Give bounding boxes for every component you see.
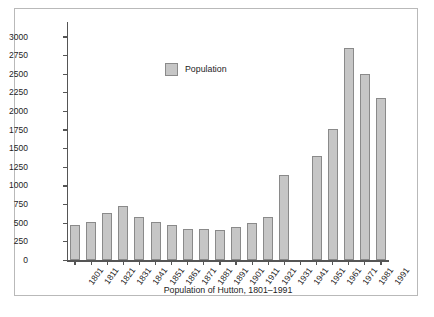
y-tick-mark — [63, 92, 67, 93]
y-axis-line — [67, 22, 68, 261]
x-tick-mark — [203, 261, 204, 265]
x-tick-mark — [235, 261, 236, 265]
x-tick-mark — [139, 261, 140, 265]
chart-legend: Population — [165, 63, 227, 76]
bar — [134, 217, 144, 261]
x-tick-mark — [187, 261, 188, 265]
y-tick-label: 1000 — [9, 181, 28, 190]
x-tick-mark — [123, 261, 124, 265]
bar — [215, 230, 225, 261]
x-tick-label: 1911 — [264, 266, 281, 286]
bar — [279, 175, 289, 261]
x-tick-label: 1871 — [200, 266, 218, 286]
bar — [102, 213, 112, 260]
x-tick-label: 1811 — [103, 266, 120, 286]
bar — [183, 229, 193, 260]
legend-label-population: Population — [185, 65, 227, 74]
x-tick-label: 1841 — [152, 266, 170, 286]
x-tick-mark — [155, 261, 156, 265]
bar — [86, 222, 96, 261]
x-tick-mark — [171, 261, 172, 265]
y-tick-label: 500 — [14, 219, 28, 228]
y-tick-label: 750 — [14, 200, 28, 209]
x-tick-mark — [364, 261, 365, 265]
x-tick-label: 1921 — [280, 266, 298, 286]
y-tick-label: 2500 — [9, 70, 28, 79]
x-tick-label: 1881 — [216, 266, 234, 286]
y-tick-mark — [63, 260, 67, 261]
x-tick-mark — [300, 261, 301, 265]
x-tick-label: 1821 — [119, 266, 137, 286]
y-tick-label: 1250 — [9, 163, 28, 172]
bar — [376, 98, 386, 260]
x-tick-mark — [268, 261, 269, 265]
bar — [328, 129, 338, 260]
y-tick-label: 2000 — [9, 107, 28, 116]
x-tick-label: 1801 — [87, 266, 105, 286]
plot-area: 3000275025002250200017501500125010007505… — [15, 9, 417, 295]
bar — [263, 217, 273, 261]
y-tick-mark — [63, 148, 67, 149]
x-tick-label: 1951 — [329, 266, 347, 286]
x-tick-mark — [380, 261, 381, 265]
x-tick-mark — [316, 261, 317, 265]
x-tick-mark — [74, 261, 75, 265]
y-tick-mark — [63, 111, 67, 112]
bar — [199, 229, 209, 260]
bar — [118, 206, 128, 260]
y-tick-mark — [63, 241, 67, 242]
bar — [360, 74, 370, 261]
x-tick-label: 1991 — [393, 266, 411, 286]
y-tick-label: 250 — [14, 237, 28, 246]
x-tick-mark — [348, 261, 349, 265]
y-tick-mark — [63, 167, 67, 168]
y-tick-mark — [63, 185, 67, 186]
y-tick-mark — [63, 74, 67, 75]
x-tick-label: 1941 — [313, 266, 331, 286]
x-tick-label: 1891 — [232, 266, 250, 286]
x-tick-label: 1981 — [377, 266, 395, 286]
x-axis-line — [67, 260, 389, 261]
y-tick-mark — [63, 223, 67, 224]
x-tick-mark — [252, 261, 253, 265]
x-tick-label: 1961 — [345, 266, 363, 286]
x-tick-mark — [219, 261, 220, 265]
y-tick-label: 1500 — [9, 144, 28, 153]
x-tick-label: 1971 — [361, 266, 379, 286]
y-tick-mark — [63, 204, 67, 205]
y-tick-label: 0 — [23, 256, 28, 265]
x-tick-label: 1901 — [248, 266, 266, 286]
legend-swatch-population — [165, 63, 178, 76]
x-tick-mark — [91, 261, 92, 265]
y-tick-label: 1750 — [9, 126, 28, 135]
x-tick-label: 1831 — [135, 266, 153, 286]
bar — [231, 227, 241, 261]
x-tick-label: 1861 — [184, 266, 202, 286]
y-tick-label: 3000 — [9, 33, 28, 42]
bar — [151, 222, 161, 261]
x-tick-mark — [332, 261, 333, 265]
chart-figure: 3000275025002250200017501500125010007505… — [14, 8, 418, 296]
bar — [344, 48, 354, 260]
x-tick-label: 1851 — [168, 266, 186, 286]
y-tick-mark — [63, 36, 67, 37]
x-tick-mark — [284, 261, 285, 265]
bar — [312, 156, 322, 261]
y-tick-label: 2750 — [9, 51, 28, 60]
y-tick-mark — [63, 129, 67, 130]
x-tick-mark — [107, 261, 108, 265]
bar — [70, 225, 80, 261]
bar — [247, 223, 257, 261]
x-tick-label: 1931 — [296, 266, 314, 286]
bar — [167, 225, 177, 261]
y-tick-mark — [63, 55, 67, 56]
chart-title: Population of Hutton, 1801–1991 — [67, 286, 389, 295]
y-tick-label: 2250 — [9, 88, 28, 97]
